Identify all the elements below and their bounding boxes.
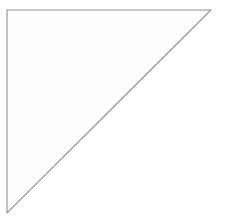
triangle-grid-figure — [0, 0, 230, 224]
diagram-canvas — [0, 0, 230, 224]
